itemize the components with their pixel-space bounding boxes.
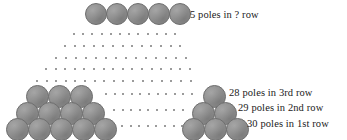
first-row-label: 30 poles in 1st row [247,118,329,130]
ellipsis-dot [182,93,184,95]
ellipsis-dot [160,68,162,70]
ellipsis-dot [91,33,93,35]
ellipsis-dot [147,109,149,111]
ellipsis-dot [189,68,191,70]
ellipsis-dot [190,80,192,82]
ellipsis-dot [131,45,133,47]
ellipsis-dot [122,93,124,95]
ellipsis-dot [55,80,57,82]
ellipsis-dot [160,45,162,47]
ellipsis-dot [179,45,181,47]
ellipsis-dot [139,109,141,111]
ellipsis-dot [114,93,116,95]
ellipsis-dot [113,109,115,111]
ellipsis-dot [164,125,166,127]
ellipsis-dot [95,57,97,59]
ellipsis-dot [145,57,147,59]
ellipsis-dot-row [105,91,193,97]
second-row-label: 29 poles in 2nd row [238,102,323,114]
pole-circle [94,118,117,140]
ellipsis-dot [165,33,167,35]
ellipsis-dot [141,45,143,47]
ellipsis-dot [161,80,163,82]
ellipsis-dot [157,93,159,95]
ellipsis-dot [82,33,84,35]
ellipsis-dot [155,125,157,127]
ellipsis-dot [142,80,144,82]
ellipsis-dot [174,93,176,95]
ellipsis-dot [64,68,66,70]
pole-circle [148,3,170,25]
ellipsis-dot [102,45,104,47]
ellipsis-dot [74,45,76,47]
ellipsis-dot [165,57,167,59]
top-row-label: 5 poles in ? row [190,9,259,21]
ellipsis-dot [122,109,124,111]
ellipsis-dot [174,33,176,35]
pole-circle [50,118,73,140]
ellipsis-dot [125,57,127,59]
ellipsis-dot [148,93,150,95]
ellipsis-dot-row [45,66,191,72]
pole-circle [28,118,51,140]
ellipsis-dot [119,33,121,35]
pole-circle [226,118,249,140]
ellipsis-dot [165,109,167,111]
pole-circle [106,3,128,25]
ellipsis-dot [132,80,134,82]
ellipsis-dot [36,80,38,82]
ellipsis-dot-row [36,78,192,84]
ellipsis-dot-row [64,43,181,49]
ellipsis-dot-row [73,31,176,37]
ellipsis-dot-row [121,123,183,129]
ellipsis-dot [131,68,133,70]
ellipsis-dot [131,93,133,95]
ellipsis-dot-row [55,55,187,61]
ellipsis-dot [170,68,172,70]
ellipsis-dot [83,45,85,47]
ellipsis-dot [65,80,67,82]
ellipsis-dot [121,125,123,127]
ellipsis-dot [46,80,48,82]
ellipsis-dot [105,57,107,59]
ellipsis-dot [175,57,177,59]
pole-circle [6,118,29,140]
ellipsis-dot [55,57,57,59]
ellipsis-dot [179,68,181,70]
ellipsis-dot [64,45,66,47]
ellipsis-dot [122,80,124,82]
ellipsis-dot [138,125,140,127]
ellipsis-dot [135,57,137,59]
diagram-canvas: 5 poles in ? row28 poles in 3rd row29 po… [0,0,347,140]
ellipsis-dot [156,109,158,111]
ellipsis-dot [103,68,105,70]
third-row-label: 28 poles in 3rd row [229,87,313,99]
ellipsis-dot [173,109,175,111]
ellipsis-dot [122,68,124,70]
ellipsis-dot [130,109,132,111]
ellipsis-dot-row [113,107,184,113]
ellipsis-dot [93,68,95,70]
ellipsis-dot [45,68,47,70]
pole-circle [169,3,191,25]
ellipsis-dot [113,80,115,82]
ellipsis-dot [74,80,76,82]
ellipsis-dot [180,80,182,82]
ellipsis-dot [84,80,86,82]
pole-circle [85,3,107,25]
pole-circle [204,118,227,140]
ellipsis-dot [112,45,114,47]
ellipsis-dot [85,57,87,59]
ellipsis-dot [83,68,85,70]
ellipsis-dot [130,125,132,127]
pole-circle [72,118,95,140]
ellipsis-dot [110,33,112,35]
ellipsis-dot [74,68,76,70]
ellipsis-dot [139,93,141,95]
ellipsis-dot [103,80,105,82]
ellipsis-dot [112,68,114,70]
ellipsis-dot [151,68,153,70]
ellipsis-dot [191,93,193,95]
ellipsis-dot [150,45,152,47]
ellipsis-dot [137,33,139,35]
